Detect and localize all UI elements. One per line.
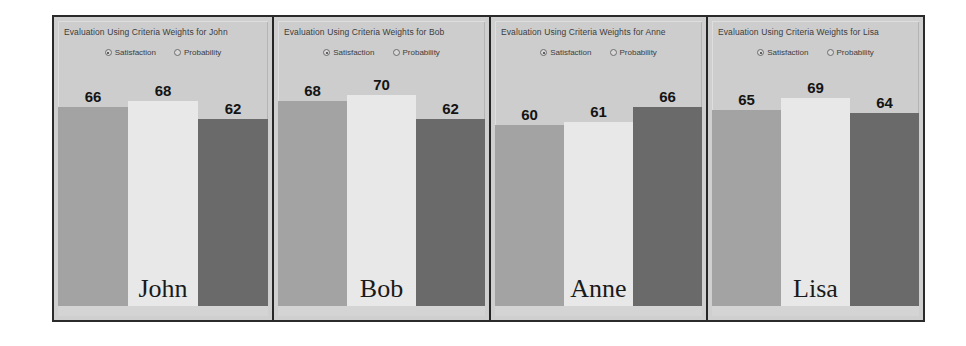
radio-option-label: Satisfaction [333,48,374,57]
bar-group: 656964 [712,65,919,306]
radio-option-label: Satisfaction [115,48,156,57]
radio-option-probability[interactable]: Probability [610,48,657,57]
radio-option-probability[interactable]: Probability [827,48,874,57]
panel-title: Evaluation Using Criteria Weights for Li… [718,27,915,37]
radio-option-probability[interactable]: Probability [174,48,221,57]
bar: 69 [781,98,850,306]
radio-option-satisfaction[interactable]: Satisfaction [757,48,808,57]
measure-radio-group: SatisfactionProbability [278,48,485,57]
bar-slot: 65 [712,65,781,306]
bar: 66 [58,107,128,306]
radio-button-icon[interactable] [174,49,181,56]
bar: 62 [198,119,268,306]
radio-option-label: Probability [184,48,221,57]
radio-button-icon[interactable] [393,49,400,56]
panel-inner-surface: Evaluation Using Criteria Weights for An… [495,21,702,316]
radio-button-icon[interactable] [105,49,112,56]
bar-value-label: 69 [781,79,850,96]
bar: 60 [495,125,564,306]
bar-slot: 62 [198,65,268,306]
bar: 65 [712,110,781,306]
radio-option-label: Probability [837,48,874,57]
panel-plot-area: 656964Lisa [712,65,919,316]
radio-button-icon[interactable] [540,49,547,56]
bar: 70 [347,95,416,306]
panel-plot-area: 606166Anne [495,65,702,316]
panel-plot-area: 687062Bob [278,65,485,316]
bar-slot: 61 [564,65,633,306]
bar: 66 [633,107,702,306]
bar-slot: 60 [495,65,564,306]
bar-group: 666862 [58,65,268,306]
radio-option-label: Satisfaction [550,48,591,57]
radio-button-icon[interactable] [610,49,617,56]
bar-value-label: 66 [633,88,702,105]
radio-option-label: Probability [403,48,440,57]
bar: 62 [416,119,485,306]
bar-slot: 62 [416,65,485,306]
panel-plot-area: 666862John [58,65,268,316]
evaluation-chart-frame: Evaluation Using Criteria Weights for Jo… [52,15,925,322]
bar-value-label: 60 [495,106,564,123]
bar-slot: 66 [58,65,128,306]
measure-radio-group: SatisfactionProbability [58,48,268,57]
bar-slot: 70 [347,65,416,306]
panel-inner-surface: Evaluation Using Criteria Weights for Jo… [58,21,268,316]
panel-title: Evaluation Using Criteria Weights for An… [501,27,698,37]
radio-button-icon[interactable] [323,49,330,56]
plot-baseline [278,306,485,316]
bar-slot: 66 [633,65,702,306]
evaluation-panel-lisa: Evaluation Using Criteria Weights for Li… [708,17,923,320]
evaluation-panel-bob: Evaluation Using Criteria Weights for Bo… [274,17,491,320]
plot-baseline [712,306,919,316]
evaluation-panel-john: Evaluation Using Criteria Weights for Jo… [54,17,274,320]
bar-slot: 64 [850,65,919,306]
panel-title: Evaluation Using Criteria Weights for Jo… [64,27,264,37]
bar-group: 606166 [495,65,702,306]
radio-option-satisfaction[interactable]: Satisfaction [540,48,591,57]
panel-inner-surface: Evaluation Using Criteria Weights for Li… [712,21,919,316]
radio-button-icon[interactable] [757,49,764,56]
measure-radio-group: SatisfactionProbability [712,48,919,57]
bar: 68 [128,101,198,306]
panel-title: Evaluation Using Criteria Weights for Bo… [284,27,481,37]
bar-slot: 69 [781,65,850,306]
bar-group: 687062 [278,65,485,306]
bar-value-label: 68 [128,82,198,99]
plot-baseline [58,306,268,316]
measure-radio-group: SatisfactionProbability [495,48,702,57]
bar-value-label: 65 [712,91,781,108]
bar: 64 [850,113,919,306]
bar-value-label: 70 [347,76,416,93]
plot-baseline [495,306,702,316]
bar-value-label: 64 [850,94,919,111]
radio-option-satisfaction[interactable]: Satisfaction [323,48,374,57]
evaluation-panel-anne: Evaluation Using Criteria Weights for An… [491,17,708,320]
bar-value-label: 66 [58,88,128,105]
radio-option-satisfaction[interactable]: Satisfaction [105,48,156,57]
bar-slot: 68 [128,65,198,306]
bar-value-label: 62 [416,100,485,117]
radio-option-label: Probability [620,48,657,57]
bar: 61 [564,122,633,306]
radio-option-label: Satisfaction [767,48,808,57]
panel-inner-surface: Evaluation Using Criteria Weights for Bo… [278,21,485,316]
bar-slot: 68 [278,65,347,306]
bar-value-label: 68 [278,82,347,99]
bar: 68 [278,101,347,306]
radio-button-icon[interactable] [827,49,834,56]
bar-value-label: 61 [564,103,633,120]
bar-value-label: 62 [198,100,268,117]
radio-option-probability[interactable]: Probability [393,48,440,57]
